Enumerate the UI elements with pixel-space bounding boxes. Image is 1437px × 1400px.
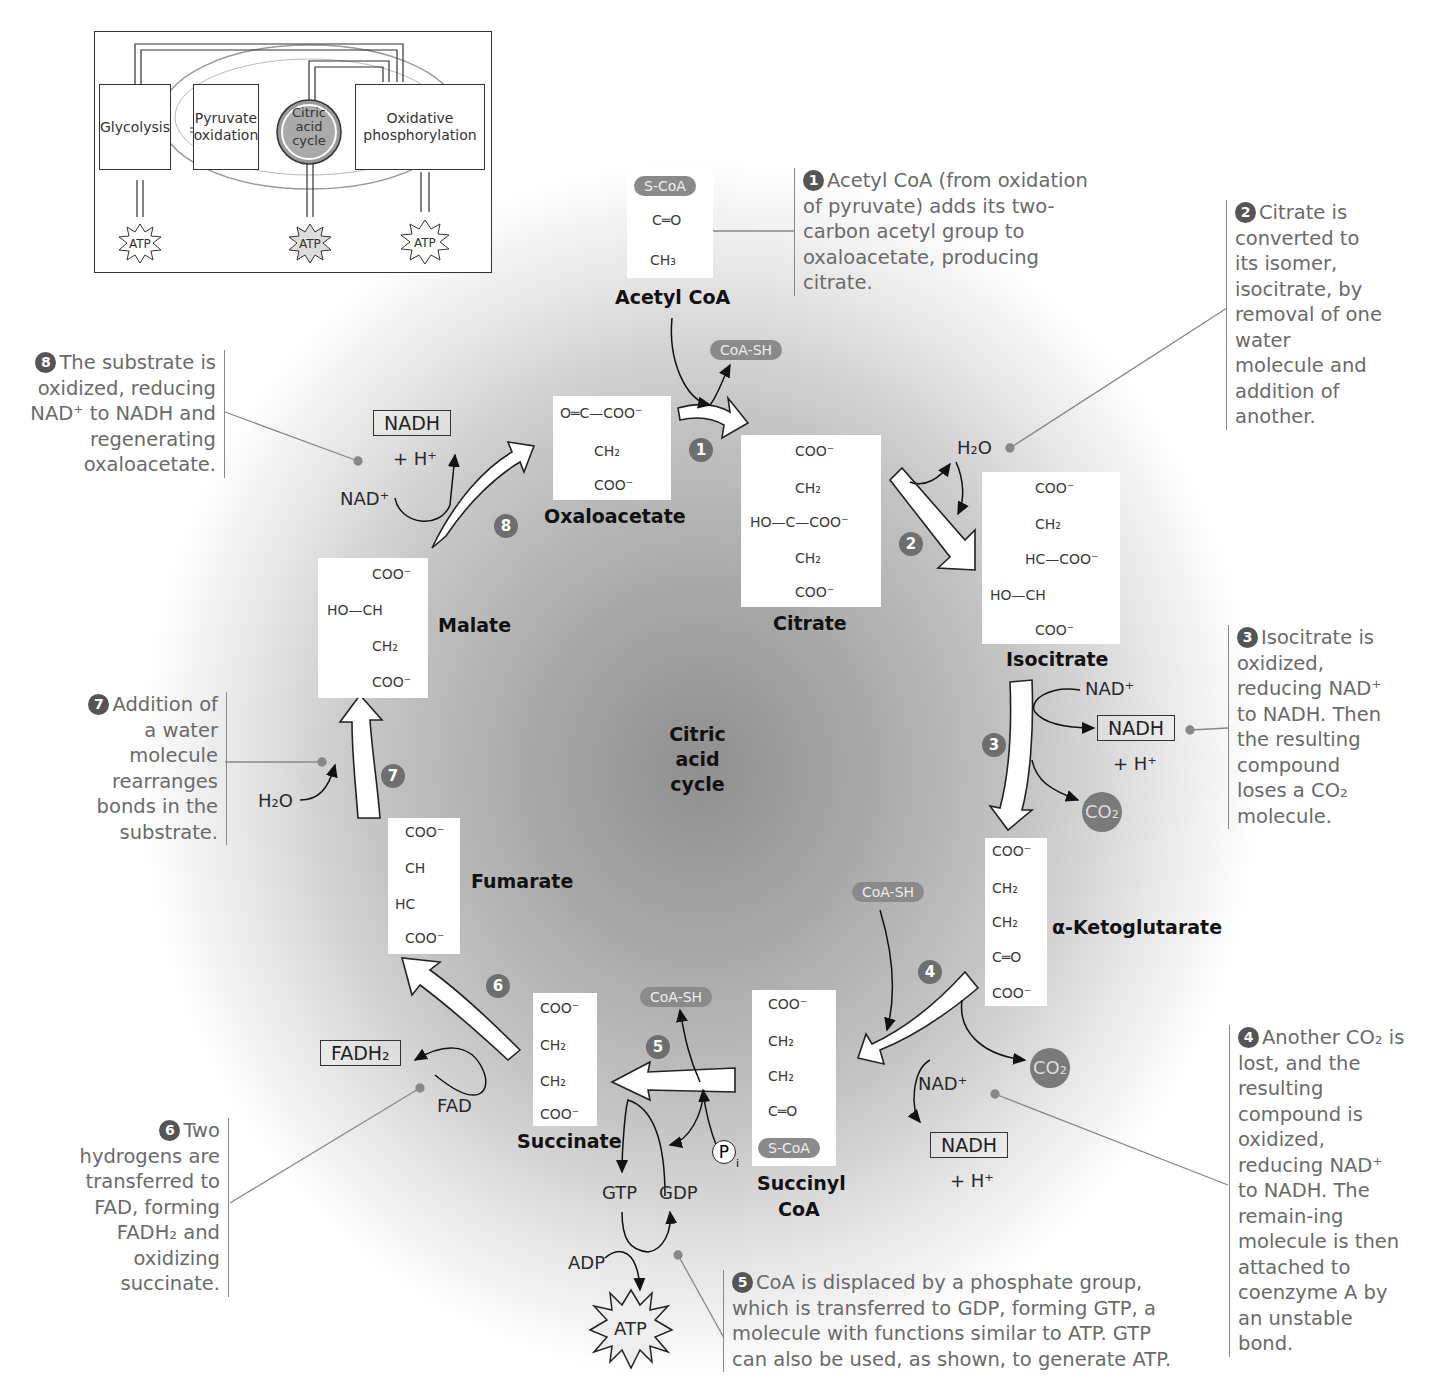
step-badge-8: 8 <box>494 514 518 538</box>
fumarate-line-2: CH <box>405 860 425 876</box>
oxaloacetate-name: Oxaloacetate <box>544 505 686 527</box>
h-plus-step3: + H⁺ <box>1113 753 1157 774</box>
cycle-title-line-2: acid <box>650 747 745 772</box>
annotation-1-number: 1 <box>803 170 824 191</box>
akg-line-2: CH₂ <box>992 880 1018 896</box>
succinyl-coa-s-coa-pill: S-CoA <box>758 1138 820 1158</box>
annotation-6-text: Two hydrogens are transferred to FAD, fo… <box>80 1119 220 1295</box>
succinyl-coa-line-3: CH₂ <box>768 1068 794 1084</box>
citrate-line-3: HO—C—COO⁻ <box>750 514 849 530</box>
fumarate-line-4: COO⁻ <box>405 930 444 946</box>
succinyl-coa-line-4: C═O <box>768 1103 797 1119</box>
oxaloacetate-line-1: O═C—COO⁻ <box>560 405 642 421</box>
coa-sh-step5: CoA-SH <box>640 987 712 1007</box>
acetyl-coa-name: Acetyl CoA <box>615 286 730 308</box>
annotation-6-number: 6 <box>159 1120 180 1141</box>
isocitrate-line-4: HO—CH <box>990 587 1046 603</box>
akg-line-3: CH₂ <box>992 914 1018 930</box>
coa-sh-step4: CoA-SH <box>852 882 924 902</box>
annotation-4-text: Another CO₂ is lost, and the resulting c… <box>1238 1026 1404 1355</box>
co2-step3: CO₂ <box>1082 792 1122 832</box>
atp-step5: ATP <box>614 1318 647 1339</box>
citrate-line-1: COO⁻ <box>795 443 834 459</box>
malate-line-3: CH₂ <box>372 638 398 654</box>
citrate-line-5: COO⁻ <box>795 584 834 600</box>
akg-line-1: COO⁻ <box>992 843 1031 859</box>
annotation-3-number: 3 <box>1237 627 1258 648</box>
citrate-line-2: CH₂ <box>795 480 821 496</box>
step-badge-7: 7 <box>381 764 405 788</box>
malate-line-1: COO⁻ <box>372 566 411 582</box>
cycle-title: Citric acid cycle <box>650 722 745 797</box>
isocitrate-line-5: COO⁻ <box>1035 622 1074 638</box>
acetyl-coa-s-coa-pill: S-CoA <box>634 176 696 196</box>
annotation-4-number: 4 <box>1238 1027 1259 1048</box>
phosphate-p: P <box>719 1142 729 1162</box>
gtp-step5: GTP <box>602 1182 637 1203</box>
nadh-step4: NADH <box>930 1132 1008 1158</box>
oxaloacetate-line-3: COO⁻ <box>594 477 633 493</box>
annotation-5-number: 5 <box>732 1272 753 1293</box>
annotation-2-number: 2 <box>1235 202 1256 223</box>
annotation-8-number: 8 <box>35 352 56 373</box>
annotation-7-text: Addition of a water molecule rearranges … <box>97 693 218 844</box>
annotation-step-3: 3Isocitrate is oxidized, reducing NAD⁺ t… <box>1228 625 1387 829</box>
citrate-name: Citrate <box>773 612 847 634</box>
annotation-8-text: The substrate is oxidized, reducing NAD⁺… <box>30 351 216 476</box>
succinate-line-1: COO⁻ <box>540 1000 579 1016</box>
isocitrate-line-1: COO⁻ <box>1035 480 1074 496</box>
phosphate-subscript: i <box>736 1157 739 1170</box>
annotation-7-number: 7 <box>88 694 109 715</box>
akg-line-5: COO⁻ <box>992 985 1031 1001</box>
succinyl-coa-name-1: Succinyl <box>757 1172 846 1194</box>
nadh-step3: NADH <box>1097 715 1175 741</box>
acetyl-coa-carbonyl: C═O <box>652 212 681 228</box>
citrate-line-4: CH₂ <box>795 550 821 566</box>
step-badge-1: 1 <box>689 438 713 462</box>
annotation-step-4: 4Another CO₂ is lost, and the resulting … <box>1229 1025 1408 1357</box>
gdp-step5: GDP <box>659 1182 698 1203</box>
malate-name: Malate <box>438 614 511 636</box>
annotation-step-7: 7Addition of a water molecule rearranges… <box>76 692 227 845</box>
malate-line-4: COO⁻ <box>372 674 411 690</box>
annotation-2-text: Citrate is converted to its isomer, isoc… <box>1235 201 1382 428</box>
nad-step8: NAD⁺ <box>340 488 389 509</box>
annotation-step-5: 5CoA is displaced by a phosphate group, … <box>723 1270 1192 1372</box>
fad-step6: FAD <box>437 1095 472 1116</box>
annotation-step-6: 6Two hydrogens are transferred to FAD, f… <box>68 1118 229 1297</box>
nad-step4: NAD⁺ <box>918 1073 967 1094</box>
annotation-step-2: 2Citrate is converted to its isomer, iso… <box>1226 200 1385 430</box>
co2-step4: CO₂ <box>1030 1048 1070 1088</box>
cycle-title-line-3: cycle <box>650 772 745 797</box>
fadh2-step6: FADH₂ <box>320 1040 401 1066</box>
succinate-name: Succinate <box>517 1130 622 1152</box>
isocitrate-line-2: CH₂ <box>1035 516 1061 532</box>
step-badge-5: 5 <box>646 1035 670 1059</box>
alpha-ketoglutarate-name: α-Ketoglutarate <box>1052 916 1222 938</box>
cycle-title-line-1: Citric <box>650 722 745 747</box>
succinate-line-3: CH₂ <box>540 1073 566 1089</box>
step-badge-4: 4 <box>918 960 942 984</box>
annotation-step-1: 1Acetyl CoA (from oxidation of pyruvate)… <box>794 168 1093 296</box>
succinyl-coa-line-1: COO⁻ <box>768 996 807 1012</box>
succinate-line-2: CH₂ <box>540 1037 566 1053</box>
succinyl-coa-line-2: CH₂ <box>768 1033 794 1049</box>
malate-line-2: HO—CH <box>327 602 383 618</box>
step-badge-3: 3 <box>982 733 1006 757</box>
fumarate-line-3: HC <box>395 896 415 912</box>
annotation-1-text: Acetyl CoA (from oxidation of pyruvate) … <box>803 169 1088 294</box>
isocitrate-line-3: HC—COO⁻ <box>1025 551 1099 567</box>
h-plus-step8: + H⁺ <box>393 448 437 469</box>
step-badge-6: 6 <box>486 974 510 998</box>
step-badge-2: 2 <box>899 532 923 556</box>
isocitrate-name: Isocitrate <box>1006 648 1108 670</box>
h-plus-step4: + H⁺ <box>950 1170 994 1191</box>
oxaloacetate-line-2: CH₂ <box>594 443 620 459</box>
fumarate-line-1: COO⁻ <box>405 824 444 840</box>
succinyl-coa-name-2: CoA <box>778 1198 820 1220</box>
h2o-step7: H₂O <box>258 790 293 811</box>
akg-line-4: C═O <box>992 949 1021 965</box>
phosphate-pi: P <box>712 1140 736 1164</box>
coa-sh-step1: CoA-SH <box>710 340 782 360</box>
h2o-step2: H₂O <box>957 437 992 458</box>
